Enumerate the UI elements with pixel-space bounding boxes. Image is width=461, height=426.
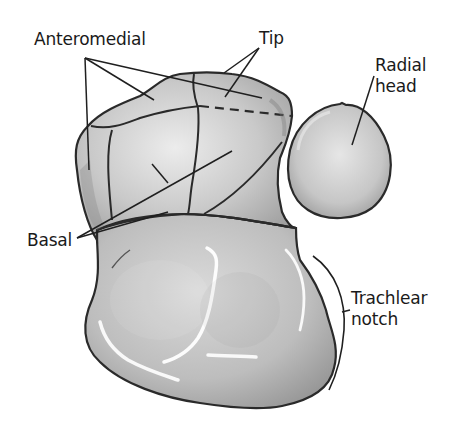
coronoid-diagram: Anteromedial Tip Radial head Basal Trach…	[0, 0, 461, 426]
label-trochlear-notch: Trachlear notch	[351, 288, 427, 330]
label-radial-head-line2: head	[375, 76, 426, 97]
label-trochlear-line1: Trachlear	[351, 288, 427, 309]
label-basal: Basal	[27, 230, 72, 251]
trochlear-notch-body	[85, 214, 336, 408]
leader-anteromedial-2	[85, 58, 154, 100]
label-tip: Tip	[259, 28, 284, 49]
radial-head	[288, 103, 391, 218]
label-radial-head-line1: Radial	[375, 55, 426, 76]
coronoid-process	[76, 73, 296, 241]
label-radial-head: Radial head	[375, 55, 426, 97]
label-trochlear-line2: notch	[351, 309, 427, 330]
label-anteromedial: Anteromedial	[34, 29, 146, 50]
leader-tip-1	[224, 48, 259, 73]
